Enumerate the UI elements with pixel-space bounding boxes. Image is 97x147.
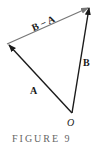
vector-b-label: B — [83, 57, 90, 68]
origin-label: O — [67, 117, 74, 128]
vector-a-arrow — [9, 45, 72, 113]
vector-diagram: A B B − A O — [0, 0, 97, 147]
vector-b-minus-a-label: B − A — [30, 13, 57, 33]
vector-a-label: A — [30, 85, 38, 96]
figure-caption: FIGURE 9 — [12, 133, 72, 144]
